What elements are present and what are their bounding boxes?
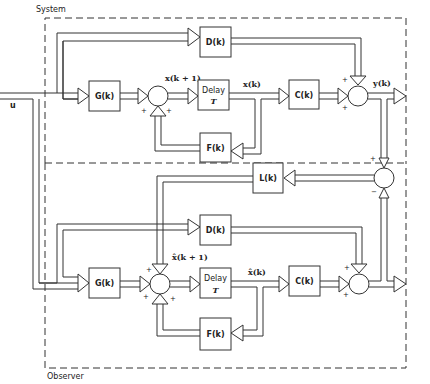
input-u-label: u [10, 101, 16, 110]
observer-F-to-sum-pipe [157, 304, 200, 336]
arrow-obs-G-to-sum [140, 276, 150, 292]
arrow-obs-D-to-sum [351, 264, 367, 273]
observer-sum-junction-1 [150, 274, 170, 294]
system-delay-to-C-pipe [229, 93, 279, 154]
arrow-error-to-L [284, 170, 295, 186]
observer-C-label: C(k) [295, 277, 314, 286]
observer-label: Observer [47, 372, 84, 381]
observer-sum2-sign-top: + [344, 264, 350, 272]
error-to-L-pipe [295, 175, 374, 181]
observer-delay-T: T [213, 285, 220, 295]
arrow-u-to-G [78, 88, 89, 104]
system-label: System [36, 5, 66, 14]
error-sum-sign-top: + [370, 155, 376, 163]
observer-sum-to-delay-pipe [170, 281, 190, 287]
arrow-F-to-sum [150, 106, 166, 116]
system-sum1-sign-bottom: + [166, 107, 172, 115]
system-signal-x-next: x(k + 1) [165, 73, 201, 83]
error-sum-sign-bottom: − [371, 188, 377, 196]
system-delay-label: Delay [202, 86, 225, 95]
observer-sum1-sign-left: + [143, 293, 149, 301]
observer-delay-label: Delay [204, 274, 227, 283]
arrow-C-to-sum [338, 88, 348, 104]
observer-sum1-sign-bottom: + [170, 295, 176, 303]
system-signal-x: x(k) [243, 79, 261, 89]
error-sum-junction [374, 168, 394, 188]
observer-D-to-sum-pipe [231, 227, 362, 264]
system-G-label: G(k) [95, 92, 114, 101]
observer-signal-xhat: x̂(k) [248, 267, 266, 277]
system-delay-T: T [211, 96, 218, 106]
observer-F-label: F(k) [206, 330, 224, 339]
system-D-label: D(k) [206, 38, 225, 47]
system-sum2-sign-top: + [342, 76, 348, 84]
system-sum2-sign-bottom: + [342, 104, 348, 112]
observer-C-to-sum-pipe [320, 281, 339, 287]
system-sum-junction-1 [148, 86, 168, 106]
arrow-delay-to-C [279, 88, 289, 104]
u-to-system-G [57, 41, 188, 99]
arrow-u-to-obs-D [188, 219, 200, 235]
arrow-obs-delay-to-C [279, 276, 289, 292]
arrow-obs-C-to-sum [339, 276, 349, 292]
system-F-to-sum-pipe [155, 116, 200, 151]
system-C-label: C(k) [295, 91, 314, 100]
observer-output-pipe [369, 198, 394, 287]
arrow-x-to-F [231, 143, 243, 159]
system-sum-junction-2 [348, 86, 368, 106]
system-signal-y: y(k) [372, 78, 391, 88]
arrow-xhat-to-F [231, 325, 243, 341]
system-G-to-sum-pipe [120, 93, 138, 99]
arrow-u-to-D [188, 28, 200, 46]
observer-sum-junction-2 [349, 274, 369, 294]
arrow-obs-F-to-sum [152, 294, 168, 304]
observer-sum1-sign-top: + [146, 266, 152, 274]
L-gain-label: L(k) [259, 174, 277, 183]
arrow-obs-output [394, 276, 406, 292]
observer-G-to-sum-pipe [120, 281, 140, 287]
input-u-pipe [0, 33, 188, 289]
arrow-y-output [394, 88, 406, 104]
system-sum1-sign-left: + [141, 107, 147, 115]
arrow-obs-sum-to-delay [190, 276, 200, 292]
arrow-L-to-obs-sum [152, 264, 168, 274]
system-F-label: F(k) [206, 144, 224, 153]
arrow-obs-to-error-sum [379, 188, 389, 198]
block-diagram: System Observer u D(k) G(k) + + x(k + 1)… [0, 0, 430, 384]
observer-G-label: G(k) [95, 279, 114, 288]
arrow-sum-to-delay [188, 88, 198, 104]
arrow-u-to-obs-G [78, 274, 89, 292]
arrow-G-to-sum [138, 88, 148, 104]
observer-signal-xhat-next: x̂(k + 1) [172, 252, 208, 262]
arrow-D-to-sum [350, 76, 366, 85]
system-C-to-sum-pipe [319, 93, 338, 99]
system-D-to-sum-pipe [231, 38, 361, 76]
observer-D-label: D(k) [206, 226, 225, 235]
system-sum-to-delay-pipe [168, 93, 188, 99]
system-output-y-pipe [368, 93, 394, 158]
observer-sum2-sign-bottom: + [343, 291, 349, 299]
